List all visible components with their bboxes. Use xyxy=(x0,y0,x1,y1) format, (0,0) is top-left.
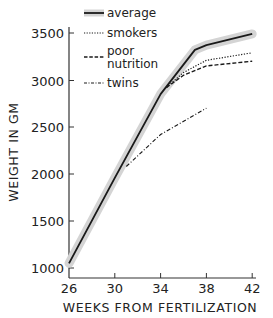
y-tick-label: 3000 xyxy=(31,74,64,89)
x-tick-label: 42 xyxy=(244,281,261,296)
x-tick-label: 34 xyxy=(152,281,169,296)
y-axis-title: WEIGHT IN GM xyxy=(6,102,21,201)
y-tick-label: 1500 xyxy=(31,214,64,229)
legend-item-twins: twins xyxy=(84,76,139,90)
y-tick-label: 2500 xyxy=(31,120,64,135)
legend-label-smokers: smokers xyxy=(107,26,157,40)
y-tick-label: 1000 xyxy=(31,261,64,276)
x-tick-label: 38 xyxy=(198,281,215,296)
legend-label-nutrition: nutrition xyxy=(107,57,158,71)
axes xyxy=(69,27,256,278)
y-tick-label: 2000 xyxy=(31,167,64,182)
x-tick-label: 26 xyxy=(61,281,78,296)
legend-item-smokers: smokers xyxy=(84,26,157,40)
legend-item-poor-nutrition: poor nutrition xyxy=(84,44,158,71)
y-ticks: 1000 1500 2000 2500 3000 3500 xyxy=(31,26,74,276)
legend-label-poor: poor xyxy=(107,44,134,58)
series-average xyxy=(69,34,252,263)
average-band xyxy=(69,34,252,263)
x-tick-label: 30 xyxy=(107,281,124,296)
legend-item-average: average xyxy=(84,6,156,20)
x-ticks: 26 30 34 38 42 xyxy=(61,273,261,296)
legend-label-average: average xyxy=(107,6,156,20)
legend: average smokers poor nutrition twins xyxy=(84,6,158,90)
y-tick-label: 3500 xyxy=(31,26,64,41)
growth-chart: 1000 1500 2000 2500 3000 3500 26 30 34 3… xyxy=(0,0,273,318)
x-axis-title: WEEKS FROM FERTILIZATION xyxy=(63,300,258,315)
legend-label-twins: twins xyxy=(107,76,139,90)
